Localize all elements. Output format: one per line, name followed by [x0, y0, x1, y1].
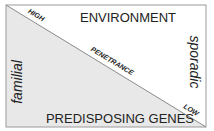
penetrance-diagram: ENVIRONMENT PREDISPOSING GENES familial …: [0, 0, 214, 131]
predisposing-genes-label: PREDISPOSING GENES: [46, 111, 194, 126]
environment-label: ENVIRONMENT: [80, 10, 176, 25]
sporadic-label: sporadic: [187, 36, 203, 89]
familial-label: familial: [9, 59, 25, 103]
